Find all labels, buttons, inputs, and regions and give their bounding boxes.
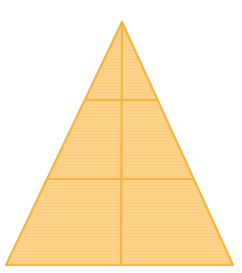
vertical-divider (121, 22, 122, 265)
diagram-canvas (0, 0, 242, 273)
divided-triangle-diagram (0, 0, 242, 273)
triangle-fill (6, 22, 233, 265)
